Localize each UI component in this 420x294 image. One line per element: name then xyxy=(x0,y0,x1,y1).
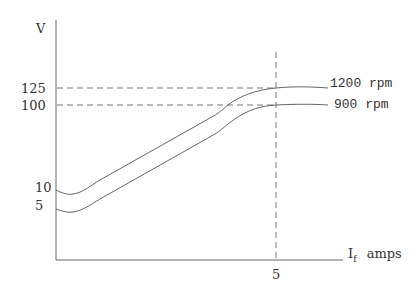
y-axis-label: V xyxy=(36,22,45,35)
legend-1200-rpm: 1200 rpm xyxy=(330,77,392,90)
y-tick-125: 125 xyxy=(21,82,46,95)
y-tick-10: 10 xyxy=(35,181,52,194)
y-tick-5: 5 xyxy=(35,199,43,212)
y-tick-100: 100 xyxy=(21,99,46,112)
x-axis-label: If amps xyxy=(348,247,402,266)
x-axis-subscript: f xyxy=(353,254,356,264)
x-tick-5: 5 xyxy=(272,268,280,281)
curve-1200-rpm xyxy=(56,87,328,194)
legend-900-rpm: 900 rpm xyxy=(334,98,389,111)
curve-900-rpm xyxy=(56,104,328,212)
x-axis-units: amps xyxy=(367,246,402,261)
